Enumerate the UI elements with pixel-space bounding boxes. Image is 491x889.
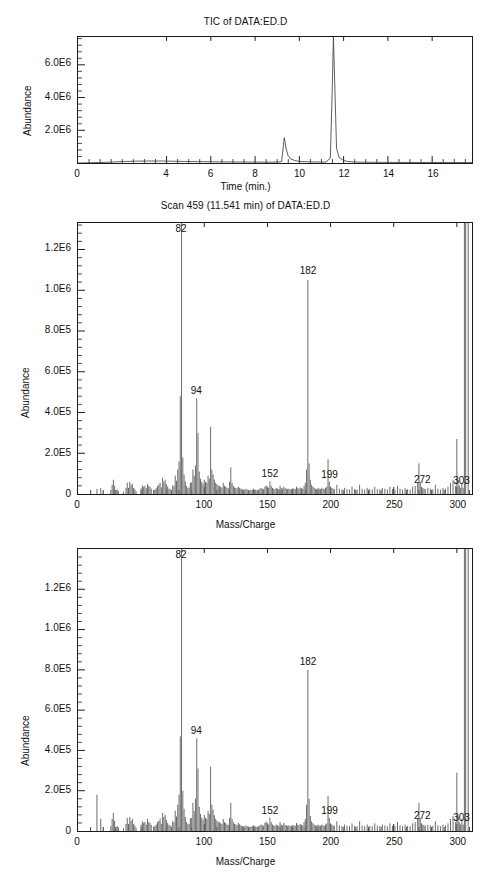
tic-plot-area (77, 36, 473, 164)
library-plot-area (77, 548, 473, 832)
tic-plot-svg (78, 37, 472, 163)
scan-xtick-0: 0 (57, 499, 97, 510)
tic-xtick-8: 8 (235, 168, 275, 179)
scan-ytick-1.2E6: 1.2E6 (29, 242, 71, 253)
scan-ytick-1.0E6: 1.0E6 (29, 283, 71, 294)
tic-x-axis-label: Time (min.) (0, 181, 491, 192)
scan-peak-label-152: 152 (254, 468, 286, 479)
scan-plot-svg (78, 223, 472, 494)
lib-peak-label-152: 152 (254, 805, 286, 816)
scan-peak-label-272: 272 (406, 474, 438, 485)
scan-x-axis-label: Mass/Charge (0, 519, 491, 530)
lib-ytick-8.0E5: 8.0E5 (29, 663, 71, 674)
tic-xtick-6: 6 (190, 168, 230, 179)
tic-xtick-4: 4 (146, 168, 186, 179)
lib-peak-label-303: 303 (446, 812, 478, 823)
lib-xtick-250: 250 (374, 836, 414, 847)
lib-peak-label-199: 199 (314, 805, 346, 816)
scan-ytick-4.0E5: 4.0E5 (29, 406, 71, 417)
scan-ytick-8.0E5: 8.0E5 (29, 324, 71, 335)
tic-xtick-12: 12 (324, 168, 364, 179)
lib-xtick-100: 100 (184, 836, 224, 847)
lib-ytick-6.0E5: 6.0E5 (29, 703, 71, 714)
scan-peak-label-303: 303 (446, 475, 478, 486)
scan-xtick-300: 300 (438, 499, 478, 510)
lib-peak-label-182: 182 (292, 656, 324, 667)
tic-ytick-6.0E6: 6.0E6 (29, 57, 71, 68)
scan-mass-spectrum-figure: Scan 459 (11.541 min) of DATA:ED.D Abund… (0, 196, 491, 541)
tic-ytick-2.0E6: 2.0E6 (29, 124, 71, 135)
lib-ytick-0: 0 (29, 825, 71, 836)
lib-xtick-300: 300 (438, 836, 478, 847)
library-x-axis-label: Mass/Charge (0, 856, 491, 867)
lib-xtick-0: 0 (57, 836, 97, 847)
scan-xtick-200: 200 (311, 499, 351, 510)
lib-xtick-200: 200 (311, 836, 351, 847)
scan-chart-title: Scan 459 (11.541 min) of DATA:ED.D (0, 200, 491, 211)
scan-xtick-150: 150 (247, 499, 287, 510)
scan-peak-label-182: 182 (292, 265, 324, 276)
tic-xtick-14: 14 (368, 168, 408, 179)
lib-peak-label-94: 94 (180, 725, 212, 736)
scan-peak-label-199: 199 (314, 469, 346, 480)
scan-peak-label-94: 94 (180, 385, 212, 396)
scan-xtick-250: 250 (374, 499, 414, 510)
lib-xtick-150: 150 (247, 836, 287, 847)
tic-chart-title: TIC of DATA:ED.D (0, 16, 491, 27)
tic-chromatogram-figure: TIC of DATA:ED.D Abundance Time (min.) 0… (0, 0, 491, 200)
tic-xtick-10: 10 (279, 168, 319, 179)
tic-ytick-4.0E6: 4.0E6 (29, 91, 71, 102)
lib-ytick-2.0E5: 2.0E5 (29, 784, 71, 795)
library-y-axis-label: Abundance (20, 715, 31, 766)
tic-xtick-16: 16 (413, 168, 453, 179)
library-plot-svg (78, 549, 472, 831)
lib-ytick-4.0E5: 4.0E5 (29, 744, 71, 755)
lib-peak-label-272: 272 (406, 810, 438, 821)
scan-xtick-100: 100 (184, 499, 224, 510)
tic-xtick-0: 0 (57, 168, 97, 179)
lib-ytick-1.2E6: 1.2E6 (29, 582, 71, 593)
scan-ytick-2.0E5: 2.0E5 (29, 447, 71, 458)
scan-ytick-6.0E5: 6.0E5 (29, 365, 71, 376)
scan-peak-label-82: 82 (165, 223, 197, 234)
library-mass-spectrum-figure: Abundance Mass/Charge 01001502002503002.… (0, 536, 491, 889)
scan-ytick-0: 0 (29, 488, 71, 499)
lib-peak-label-82: 82 (165, 549, 197, 560)
lib-ytick-1.0E6: 1.0E6 (29, 622, 71, 633)
scan-plot-area (77, 222, 473, 495)
